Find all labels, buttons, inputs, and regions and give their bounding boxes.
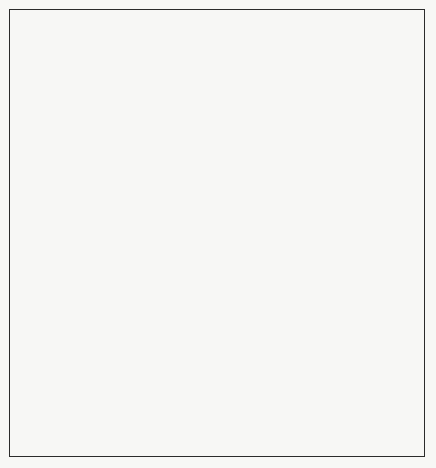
cone-diagram [0,0,436,468]
figure-root [0,0,436,468]
